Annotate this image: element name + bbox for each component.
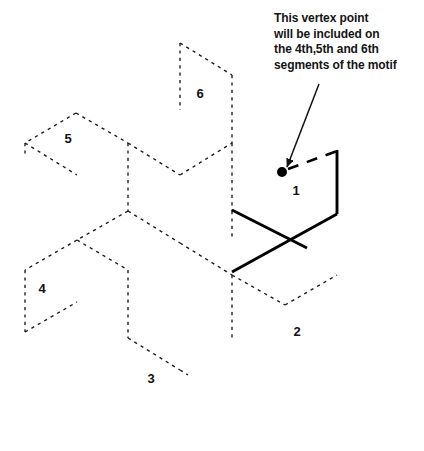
annotation-line-4: segments of the motif [274,58,397,74]
lattice-edge [25,143,77,175]
hexagonal-lattice [25,43,337,375]
lattice-edge [285,275,337,305]
lattice-edge [25,240,77,270]
annotation-line-1: This vertex point [274,11,397,27]
lattice-edge [128,338,180,370]
cell-label-6: 6 [196,86,203,101]
annotation-line-3: the 4th,5th and 6th [274,42,397,58]
lattice-edge [128,143,180,175]
cell-label-2: 2 [293,324,300,339]
lattice-edge [180,143,232,175]
cell-label-group: 123456 [38,86,300,386]
lattice-edge [25,302,77,332]
annotation-arrow [287,84,319,167]
annotation-line-2: will be included on [274,27,397,43]
cell-label-4: 4 [38,281,46,296]
lattice-edge [77,211,128,240]
lattice-edge [77,240,128,270]
lattice-edge [76,113,128,143]
lattice-edge [180,370,188,375]
cell-label-5: 5 [64,131,71,146]
lattice-edge [180,243,232,275]
motif-dashed-segment [288,151,337,169]
annotation-callout: This vertex point will be included on th… [274,11,397,73]
lattice-edge [180,43,232,75]
diagram-root: 123456 This vertex point will be include… [0,0,424,451]
highlighted-vertex-dot [277,167,287,177]
cell-label-3: 3 [147,371,154,386]
cell-label-1: 1 [292,183,299,198]
motif-segment [232,210,307,248]
motif-segment [232,214,337,272]
lattice-edge [128,211,180,243]
lattice-edge [232,275,285,305]
